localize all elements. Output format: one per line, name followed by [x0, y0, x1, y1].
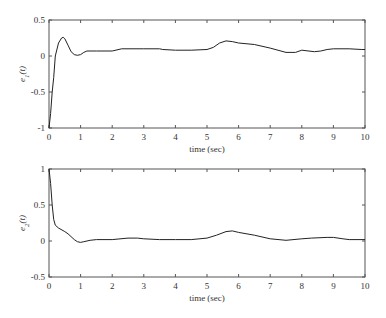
- x-tick-label: 3: [142, 132, 147, 142]
- y-tick-label: 0.5: [34, 15, 46, 25]
- x-tick-label: 8: [300, 281, 305, 291]
- x-tick-label: 10: [361, 132, 371, 142]
- y-tick-label: -0.5: [31, 272, 46, 282]
- x-tick-label: 6: [236, 281, 241, 291]
- y-tick-label: 0.5: [34, 200, 46, 210]
- x-tick-label: 8: [300, 132, 305, 142]
- x-tick-label: 4: [173, 132, 178, 142]
- x-tick-label: 6: [236, 132, 241, 142]
- y-tick-label: -0.5: [31, 87, 46, 97]
- x-tick-label: 1: [78, 132, 83, 142]
- x-tick-label: 0: [47, 132, 52, 142]
- e1-plot: 0123456789100.50-0.5-1time (sec)e1(t): [17, 15, 370, 154]
- plot-frame: [49, 20, 365, 128]
- x-tick-label: 9: [331, 281, 336, 291]
- y-tick-label: -1: [38, 123, 46, 133]
- x-tick-label: 7: [268, 132, 273, 142]
- x-tick-label: 7: [268, 281, 273, 291]
- x-tick-label: 9: [331, 132, 336, 142]
- y-axis-label: e2(t): [17, 215, 31, 231]
- e2-plot: 01234567891010.50-0.5time (sec)e2(t): [17, 164, 370, 303]
- y-tick-label: 0: [41, 51, 46, 61]
- x-tick-label: 10: [361, 281, 371, 291]
- x-tick-label: 0: [47, 281, 52, 291]
- x-tick-label: 2: [110, 132, 115, 142]
- x-tick-label: 5: [205, 281, 210, 291]
- x-axis-label: time (sec): [189, 293, 225, 303]
- plot-frame: [49, 169, 365, 277]
- y-axis-label: e1(t): [17, 66, 31, 82]
- series-line-e1t: [49, 37, 365, 128]
- x-axis-label: time (sec): [189, 144, 225, 154]
- x-tick-label: 4: [173, 281, 178, 291]
- figure: 0123456789100.50-0.5-1time (sec)e1(t)012…: [0, 0, 386, 318]
- x-tick-label: 5: [205, 132, 210, 142]
- series-line-e2t: [49, 169, 365, 242]
- x-tick-label: 1: [78, 281, 83, 291]
- y-tick-label: 1: [41, 164, 46, 174]
- x-tick-label: 3: [142, 281, 147, 291]
- x-tick-label: 2: [110, 281, 115, 291]
- y-tick-label: 0: [41, 236, 46, 246]
